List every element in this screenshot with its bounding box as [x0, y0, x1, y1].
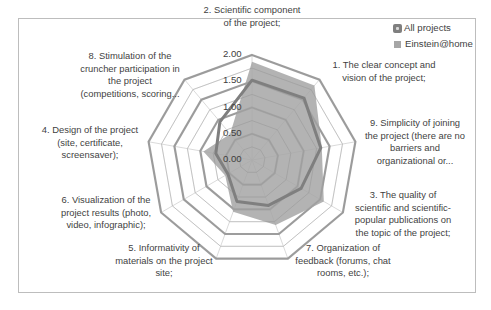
- axis-label-line: project results (photo,: [48, 207, 164, 220]
- axis-label-3: 3. The quality of scientific and scienti…: [343, 189, 463, 239]
- axis-label-line: site;: [106, 267, 222, 280]
- radial-tick-label: 1.00: [223, 101, 242, 112]
- axis-label-line: of the project;: [190, 17, 314, 30]
- axis-label-line: organizational or...: [360, 155, 470, 168]
- axis-label-7: 7. Organization of feedback (forums, cha…: [288, 242, 398, 280]
- legend-item-einstein-home[interactable]: Einstein@home: [393, 36, 473, 52]
- axis-label-1: 1. The clear concept and vision of the p…: [318, 59, 450, 84]
- line-marker-icon: [393, 24, 402, 33]
- axis-label-line: popular publications on: [343, 214, 463, 227]
- axis-label-line: 1. The clear concept and: [318, 59, 450, 72]
- axis-label-6: 6. Visualization of the project results …: [48, 194, 164, 232]
- axis-label-8: 8. Stimulation of the cruncher participa…: [70, 50, 190, 100]
- axis-label-2: 2. Scientific component of the project;: [190, 4, 314, 29]
- axis-label-line: barriers and: [360, 142, 470, 155]
- series-einstein-home-area: [203, 62, 323, 225]
- axis-label-line: feedback (forums, chat: [288, 255, 398, 268]
- axis-label-line: scientific and scientific-: [343, 202, 463, 215]
- axis-label-line: (competitions, scoring...: [70, 88, 190, 101]
- legend-label: Einstein@home: [405, 36, 473, 52]
- axis-label-line: the topic of the project;: [343, 227, 463, 240]
- radial-tick-label: 1.50: [223, 74, 242, 85]
- axis-label-line: 5. Informativity of: [106, 242, 222, 255]
- axis-label-line: (site, certificate,: [30, 137, 150, 150]
- chart-legend: All projects Einstein@home: [393, 20, 473, 52]
- radial-tick-label: 0.50: [223, 127, 242, 138]
- axis-label-9: 9. Simplicity of joining the project (th…: [360, 117, 470, 167]
- axis-label-line: 2. Scientific component: [190, 4, 314, 17]
- axis-label-line: the project: [70, 75, 190, 88]
- axis-label-line: 7. Organization of: [288, 242, 398, 255]
- radial-tick-label: 2.00: [223, 48, 242, 59]
- axis-label-line: 8. Stimulation of the: [70, 50, 190, 63]
- axis-label-line: vision of the project;: [318, 72, 450, 85]
- axis-label-line: rooms, etc.);: [288, 267, 398, 280]
- radial-tick-label: 0.00: [223, 153, 242, 164]
- legend-item-all-projects[interactable]: All projects: [393, 20, 473, 36]
- axis-label-line: 9. Simplicity of joining: [360, 117, 470, 130]
- filled-square-icon: [394, 41, 401, 48]
- axis-label-4: 4. Design of the project (site, certific…: [30, 124, 150, 162]
- axis-label-line: screensaver);: [30, 149, 150, 162]
- axis-label-line: video, infographic);: [48, 219, 164, 232]
- axis-label-line: 6. Visualization of the: [48, 194, 164, 207]
- axis-label-line: materials on the project: [106, 255, 222, 268]
- axis-label-line: 4. Design of the project: [30, 124, 150, 137]
- axis-label-line: 3. The quality of: [343, 189, 463, 202]
- legend-label: All projects: [404, 20, 451, 36]
- axis-label-line: cruncher participation in: [70, 63, 190, 76]
- axis-label-line: the project (there are no: [360, 130, 470, 143]
- axis-label-5: 5. Informativity of materials on the pro…: [106, 242, 222, 280]
